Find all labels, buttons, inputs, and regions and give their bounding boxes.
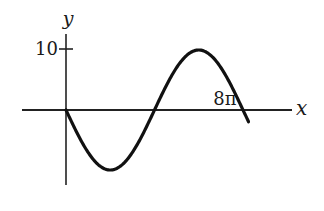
x-axis-label: x — [296, 96, 307, 120]
y-axis-label: y — [62, 7, 74, 29]
x-tick-label-8pi: 8π — [213, 88, 236, 109]
graph: y x 10 8π — [0, 0, 324, 211]
y-tick-label-10: 10 — [35, 38, 58, 59]
